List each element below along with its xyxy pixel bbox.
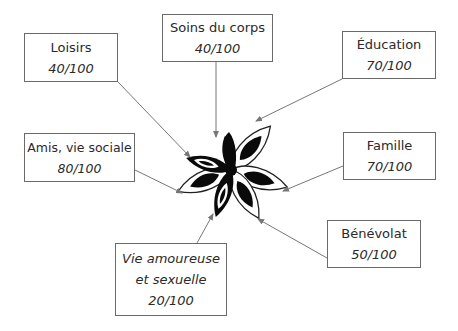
arrow-benevolat	[258, 219, 327, 258]
node-score: 70/100	[366, 55, 412, 76]
node-label: Famille	[367, 135, 413, 156]
arrow-education	[256, 79, 342, 121]
node-famille: Famille 70/100	[343, 132, 436, 180]
arrow-famille	[283, 166, 343, 191]
node-score: 50/100	[351, 244, 397, 265]
arrow-vie-amoureuse	[197, 214, 213, 243]
node-label: Éducation	[357, 34, 422, 55]
node-score: 20/100	[148, 290, 194, 311]
node-score: 40/100	[195, 38, 241, 59]
flower-icon	[174, 120, 290, 224]
node-label: Bénévolat	[341, 223, 406, 244]
node-score: 80/100	[58, 158, 102, 179]
node-label-line2: et sexuelle	[135, 269, 206, 290]
node-soins-du-corps: Soins du corps 40/100	[162, 14, 273, 62]
node-score: 70/100	[367, 156, 413, 177]
arrow-amis	[135, 170, 182, 193]
diagram-canvas: Loisirs 40/100 Soins du corps 40/100 Édu…	[0, 0, 458, 331]
node-vie-amoureuse: Vie amoureuse et sexuelle 20/100	[115, 243, 227, 316]
node-label: Soins du corps	[170, 17, 265, 38]
node-amis-vie-sociale: Amis, vie sociale 80/100	[24, 133, 135, 182]
node-score: 40/100	[48, 58, 94, 79]
node-label: Amis, vie sociale	[27, 137, 132, 158]
node-education: Éducation 70/100	[342, 31, 436, 79]
node-benevolat: Bénévolat 50/100	[327, 220, 421, 268]
node-label: Vie amoureuse	[122, 248, 220, 269]
node-label: Loisirs	[50, 37, 91, 58]
node-loisirs: Loisirs 40/100	[24, 33, 118, 82]
